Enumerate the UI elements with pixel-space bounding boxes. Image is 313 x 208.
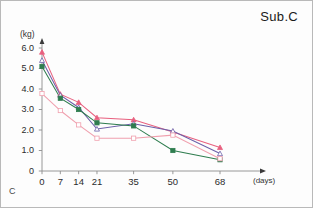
x-tick-label-50: 50 [163, 177, 183, 187]
data-point-series-1-day0 [40, 50, 45, 55]
y-tick-label-1.0: 1.0 [12, 146, 34, 155]
x-tick-label-21: 21 [87, 177, 107, 187]
x-tick-label-35: 35 [124, 177, 144, 187]
y-tick-label-3.0: 3.0 [12, 105, 34, 114]
data-point-series-3-day14 [77, 107, 81, 111]
data-point-series-3-day50 [171, 148, 175, 152]
figure-panel: Sub.C (kg) (days) C 6.05.04.03.02.01.00 … [0, 0, 313, 208]
data-point-series-4-day7 [58, 108, 62, 112]
data-point-series-3-day7 [58, 96, 62, 100]
data-point-series-1-day14 [76, 100, 81, 105]
x-tick-label-0: 0 [32, 177, 52, 187]
data-point-series-3-day0 [40, 64, 44, 68]
y-tick-label-6.0: 6.0 [12, 44, 34, 53]
data-point-series-2-day0 [40, 58, 45, 63]
data-point-series-4-day14 [77, 123, 81, 127]
x-tick-label-68: 68 [210, 177, 230, 187]
y-tick-label-0: 0 [12, 167, 34, 176]
y-tick-label-4.0: 4.0 [12, 85, 34, 94]
x-tick-label-7: 7 [50, 177, 70, 187]
y-tick-label-2.0: 2.0 [12, 126, 34, 135]
y-tick-label-5.0: 5.0 [12, 64, 34, 73]
data-point-series-4-day0 [40, 91, 44, 95]
data-point-series-3-day35 [131, 124, 135, 128]
series-line-series-1 [42, 52, 220, 147]
x-tick-label-14: 14 [69, 177, 89, 187]
data-point-series-2-day68 [218, 151, 223, 156]
data-point-series-3-day21 [95, 121, 99, 125]
data-point-series-4-day68 [218, 157, 222, 161]
data-point-series-4-day50 [171, 133, 175, 137]
data-point-series-4-day35 [131, 136, 135, 140]
data-point-series-4-day21 [95, 136, 99, 140]
series-line-series-2 [42, 60, 220, 153]
